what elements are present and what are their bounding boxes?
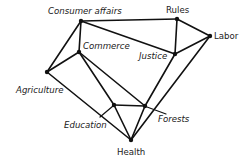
edge-education-forests [114,105,145,106]
node-label-health: Health [117,147,145,157]
label-pointer-forests [147,107,166,114]
node-commerce [77,50,81,54]
edge-consumer-affairs-commerce [79,21,81,52]
edge-education-health [114,105,131,140]
node-label-rules: Rules [166,5,190,15]
label-pointer-education [100,106,113,117]
node-label-justice: Justice [137,51,167,61]
edge-forests-health [131,106,145,140]
edge-consumer-affairs-agriculture [47,21,81,72]
edge-justice-forests [145,54,175,106]
edge-commerce-forests [79,52,145,106]
node-labor [208,34,212,38]
node-label-agriculture: Agriculture [15,85,63,95]
node-consumer-affairs [79,19,83,23]
node-label-education: Education [64,120,107,130]
edge-commerce-agriculture [47,52,79,72]
node-agriculture [45,70,49,74]
edge-consumer-affairs-rules [81,19,177,21]
node-rules [175,17,179,21]
edge-justice-labor [175,36,210,54]
node-label-consumer-affairs: Consumer affairs [48,6,122,16]
node-health [129,138,133,142]
edge-rules-justice [175,19,177,54]
node-label-commerce: Commerce [83,41,130,51]
edge-rules-labor [177,19,210,36]
edge-commerce-education [79,52,114,105]
node-label-labor: Labor [214,31,239,41]
node-education [112,103,116,107]
node-label-forests: Forests [158,114,190,124]
network-diagram: Consumer affairsRulesLaborCommerceJustic… [0,0,250,166]
node-justice [173,52,177,56]
labels-layer: Consumer affairsRulesLaborCommerceJustic… [15,5,239,157]
node-forests [143,104,147,108]
